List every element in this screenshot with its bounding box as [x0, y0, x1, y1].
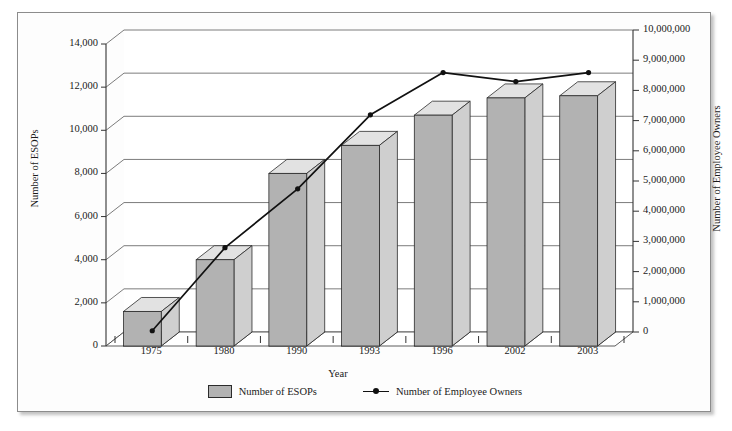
x-axis-tick-label: 2002	[485, 345, 545, 356]
line-data-point[interactable]	[368, 112, 373, 117]
y-axis-left-tick: 8,000	[28, 166, 98, 177]
figure-root: Number of ESOPs Number of Employee Owner…	[0, 0, 732, 431]
scan-top-strip	[0, 0, 732, 9]
y-axis-right-tick: 2,000,000	[643, 265, 723, 276]
x-axis-title: Year	[18, 368, 658, 379]
y-axis-right-title: Number of Employee Owners	[711, 79, 722, 259]
line-data-point[interactable]	[150, 328, 155, 333]
x-axis-tick-label: 2003	[558, 345, 618, 356]
legend-item-owners[interactable]: Number of Employee Owners	[363, 386, 522, 397]
y-axis-left-tick: 0	[28, 339, 98, 350]
x-axis-tick-label: 1990	[267, 345, 327, 356]
bar-swatch-icon	[208, 385, 232, 398]
line-data-point[interactable]	[586, 70, 591, 75]
y-axis-left-tick: 2,000	[28, 296, 98, 307]
x-axis-tick-label: 1975	[121, 345, 181, 356]
y-axis-right-tick: 10,000,000	[643, 23, 723, 34]
y-axis-right-tick: 7,000,000	[643, 114, 723, 125]
line-data-point[interactable]	[295, 186, 300, 191]
y-axis-right-tick: 9,000,000	[643, 53, 723, 64]
y-axis-right-tick: 0	[643, 325, 723, 336]
legend-label-esops: Number of ESOPs	[239, 386, 317, 397]
y-axis-right-tick: 5,000,000	[643, 174, 723, 185]
line-marker-icon	[363, 387, 389, 397]
legend-item-esops[interactable]: Number of ESOPs	[208, 385, 317, 398]
x-axis-tick-label: 1993	[340, 345, 400, 356]
y-axis-right-tick: 6,000,000	[643, 144, 723, 155]
line-data-point[interactable]	[513, 79, 518, 84]
bar-column[interactable]	[123, 297, 179, 346]
y-axis-left-tick: 4,000	[28, 253, 98, 264]
bar-column[interactable]	[342, 131, 398, 346]
chart-figure-frame: Number of ESOPs Number of Employee Owner…	[17, 12, 711, 412]
chart-legend: Number of ESOPs Number of Employee Owner…	[18, 385, 712, 398]
y-axis-left-tick: 14,000	[28, 37, 98, 48]
y-axis-right-tick: 4,000,000	[643, 204, 723, 215]
y-axis-left-tick: 10,000	[28, 123, 98, 134]
y-axis-right-tick: 8,000,000	[643, 83, 723, 94]
bar-column[interactable]	[196, 246, 252, 346]
y-axis-right-tick: 3,000,000	[643, 234, 723, 245]
line-data-point[interactable]	[222, 245, 227, 250]
line-data-point[interactable]	[441, 70, 446, 75]
bar-column[interactable]	[560, 82, 616, 346]
x-axis-tick-label: 1996	[412, 345, 472, 356]
y-axis-left-tick: 12,000	[28, 80, 98, 91]
bar-column[interactable]	[487, 84, 543, 346]
y-axis-left-tick: 6,000	[28, 210, 98, 221]
legend-label-owners: Number of Employee Owners	[396, 386, 522, 397]
plot-area: Number of ESOPs Number of Employee Owner…	[18, 13, 712, 413]
x-axis-tick-label: 1980	[194, 345, 254, 356]
y-axis-right-tick: 1,000,000	[643, 295, 723, 306]
bar-column[interactable]	[414, 101, 470, 346]
